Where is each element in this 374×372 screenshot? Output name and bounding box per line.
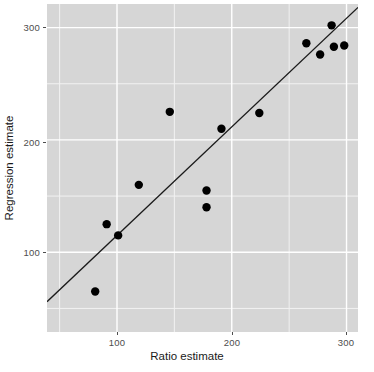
x-tick-label-300: 300 [328,337,364,348]
data-point [327,21,335,29]
y-tick-mark-200 [43,142,46,143]
data-point [202,186,210,194]
y-axis-title: Regression estimate [0,0,18,336]
data-point [202,203,210,211]
y-axis-title-text: Regression estimate [3,116,15,221]
data-point [114,231,122,239]
x-tick-mark-200 [232,332,233,335]
x-tick-mark-300 [346,332,347,335]
x-tick-mark-100 [117,332,118,335]
data-point [135,181,143,189]
x-axis-title: Ratio estimate [0,350,374,362]
data-point [102,220,110,228]
regression-fit-line [47,7,358,301]
scatter-plot: 300 200 100 100 200 300 Ratio estimate R… [0,0,374,372]
y-tick-mark-300 [43,27,46,28]
data-point [340,41,348,49]
plot-canvas [47,4,358,332]
x-tick-label-100: 100 [99,337,135,348]
x-tick-label-200: 200 [214,337,250,348]
data-point [217,124,225,132]
y-tick-mark-100 [43,252,46,253]
data-point [255,109,263,117]
data-point [166,108,174,116]
data-point [91,287,99,295]
data-point [302,39,310,47]
data-point [330,42,338,50]
data-point [316,50,324,58]
plot-panel [47,4,358,332]
